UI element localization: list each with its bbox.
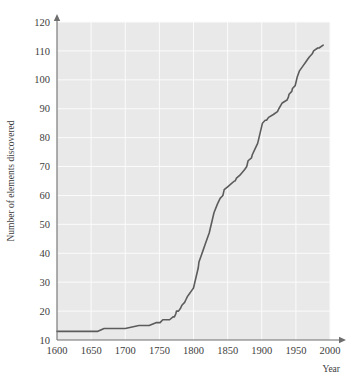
x-axis-arrowhead [339, 337, 346, 343]
line-chart: 160016501700175018001850190019502000 102… [0, 0, 359, 382]
y-tick-label: 110 [35, 46, 50, 57]
y-tick-label: 40 [40, 248, 51, 259]
x-tick-label: 1750 [149, 345, 170, 356]
y-tick-label: 100 [34, 74, 50, 85]
x-axis-tick-labels: 160016501700175018001850190019502000 [47, 345, 341, 356]
x-axis-title: Year [322, 364, 340, 374]
x-tick-label: 1800 [183, 345, 204, 356]
y-tick-label: 120 [34, 17, 50, 28]
x-tick-label: 1600 [47, 345, 68, 356]
x-tick-label: 1950 [285, 345, 306, 356]
x-tick-label: 1650 [81, 345, 102, 356]
y-axis-arrowhead [54, 14, 60, 21]
y-axis-title: Number of elements discovered [6, 120, 16, 241]
y-tick-label: 20 [40, 306, 51, 317]
x-tick-label: 1700 [115, 345, 136, 356]
y-tick-label: 70 [40, 161, 51, 172]
y-tick-label: 50 [40, 219, 51, 230]
y-tick-label: 30 [40, 277, 51, 288]
chart-container: 160016501700175018001850190019502000 102… [0, 0, 359, 382]
y-tick-label: 10 [40, 335, 51, 346]
x-tick-label: 1900 [251, 345, 272, 356]
y-tick-label: 90 [40, 103, 51, 114]
x-tick-label: 2000 [320, 345, 341, 356]
y-tick-label: 80 [40, 132, 51, 143]
y-axis-tick-labels: 102030405060708090100110120 [34, 17, 50, 346]
x-tick-label: 1850 [217, 345, 238, 356]
y-tick-label: 60 [40, 190, 51, 201]
